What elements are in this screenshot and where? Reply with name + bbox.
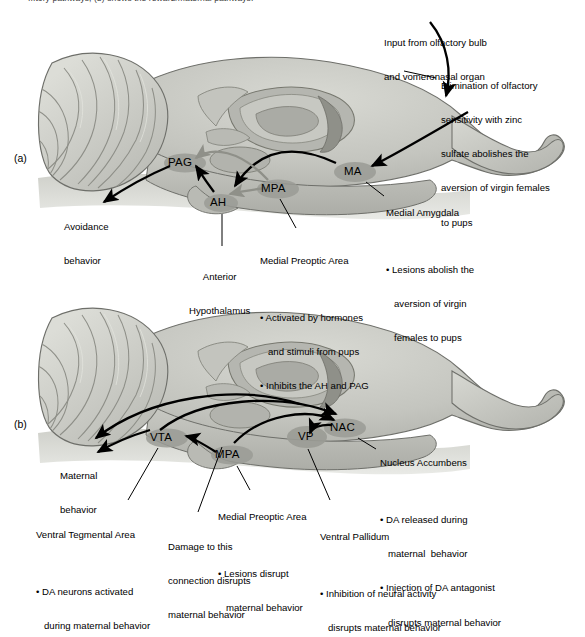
- medial-amygdala-bullet-1-cont1: aversion of virgin: [386, 298, 474, 309]
- medial-preoptic-a-bullets: Activated by hormones and stimuli from p…: [260, 289, 369, 414]
- ventral-pallidum-bullet-1: Inhibition of neural activity: [320, 588, 441, 599]
- medial-preoptic-a-bullet-1: Activated by hormones: [260, 312, 369, 323]
- medial-amygdala-bullets: Lesions abolish the aversion of virgin f…: [386, 241, 474, 366]
- annotation-ventral-pallidum: Ventral Pallidum Inhibition of neural ac…: [320, 508, 441, 637]
- zinc-sulfate-line2: sensitivity with zinc: [441, 114, 550, 125]
- medial-amygdala-bullet-1: Lesions abolish the: [386, 264, 474, 275]
- damage-connection-line3: maternal behavior: [168, 609, 251, 620]
- ventral-tegmental-area-bullets: DA neurons activated during maternal beh…: [36, 563, 150, 637]
- ventral-pallidum-title: Ventral Pallidum: [320, 531, 441, 542]
- anterior-hypothalamus-line1: Anterior: [189, 271, 250, 282]
- medial-amygdala-title: Medial Amygdala: [386, 207, 474, 218]
- leader-medial-preoptic-b: [237, 466, 250, 490]
- medial-preoptic-a-title: Medial Preoptic Area: [260, 255, 369, 266]
- ventral-tegmental-area-bullet-1-cont: during maternal behavior: [36, 620, 150, 631]
- nucleus-accumbens-title: Nucleus Accumbens: [380, 457, 501, 468]
- label-ma: MA: [344, 165, 362, 177]
- label-nac: NAC: [330, 421, 355, 433]
- label-vta: VTA: [150, 431, 172, 443]
- zinc-sulfate-line3: sulfate abolishes the: [441, 148, 550, 159]
- label-vp: VP: [298, 430, 314, 442]
- ventral-tegmental-area-title: Ventral Tegmental Area: [36, 529, 150, 540]
- ventral-pallidum-bullets: Inhibition of neural activity disrupts m…: [320, 565, 441, 637]
- avoidance-behavior-line2: behavior: [64, 255, 109, 266]
- medial-preoptic-a-bullet-1-cont: and stimuli from pups: [260, 346, 369, 357]
- annotation-avoidance-behavior: Avoidance behavior: [64, 198, 109, 289]
- annotation-medial-preoptic-a: Medial Preoptic Area Activated by hormon…: [260, 232, 369, 437]
- panel-a-letter: (a): [14, 152, 27, 164]
- annotation-medial-amygdala: Medial Amygdala Lesions abolish the aver…: [386, 184, 474, 389]
- avoidance-behavior-line1: Avoidance: [64, 221, 109, 232]
- damage-connection-line2: connection disrupts: [168, 575, 251, 586]
- ventral-tegmental-area-bullet-1: DA neurons activated: [36, 586, 150, 597]
- annotation-damage-connection: Damage to this connection disrupts mater…: [168, 518, 251, 637]
- annotation-anterior-hypothalamus: Anterior Hypothalamus: [189, 248, 250, 339]
- damage-connection-line1: Damage to this: [168, 541, 251, 552]
- annotation-ventral-tegmental-area: Ventral Tegmental Area DA neurons activa…: [36, 506, 150, 637]
- ventral-pallidum-bullet-1-cont: disrupts maternal behavior: [320, 622, 441, 633]
- label-mpa-b: MPA: [215, 448, 240, 460]
- label-pag: PAG: [168, 156, 192, 168]
- label-ah: AH: [210, 196, 226, 208]
- input-olfactory-line1: Input from olfactory bulb: [384, 37, 487, 48]
- medial-amygdala-bullet-1-cont2: females to pups: [386, 332, 474, 343]
- panel-b-letter: (b): [14, 418, 27, 430]
- anterior-hypothalamus-line2: Hypothalamus: [189, 305, 250, 316]
- label-mpa-a: MPA: [261, 182, 286, 194]
- maternal-behavior-line1: Maternal: [60, 470, 97, 481]
- medial-preoptic-a-bullet-2: Inhibits the AH and PAG: [260, 380, 369, 391]
- zinc-sulfate-line1: Elimination of olfactory: [441, 80, 550, 91]
